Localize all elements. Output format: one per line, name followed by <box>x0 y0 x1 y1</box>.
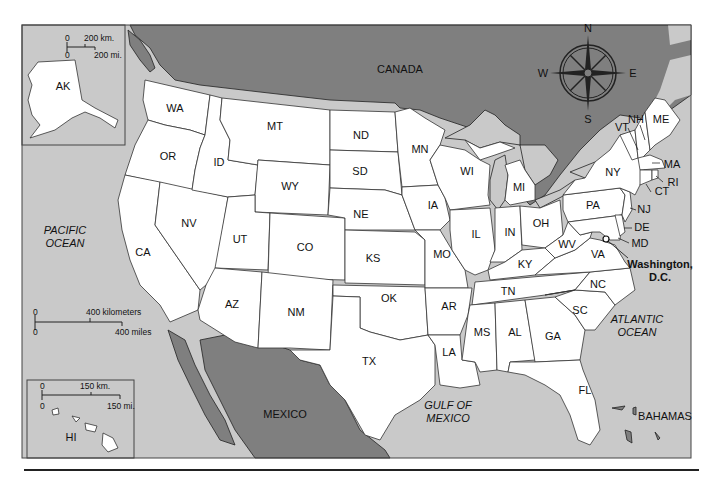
label-de: DE <box>634 221 649 233</box>
label-bahamas: BAHAMAS <box>638 410 692 422</box>
label-ok: OK <box>381 292 398 304</box>
label-gulf-2: MEXICO <box>426 412 470 424</box>
label-ks: KS <box>366 252 381 264</box>
label-wv: WV <box>558 238 576 250</box>
label-id: ID <box>214 156 225 168</box>
label-atlantic-1: ATLANTIC <box>610 313 663 325</box>
compass-n: N <box>584 22 592 34</box>
label-ms: MS <box>474 326 491 338</box>
us-map: N S E W CANADA MEXICO BAHAMAS PACIFIC OC… <box>0 0 713 478</box>
label-fl: FL <box>579 384 592 396</box>
label-ca: CA <box>135 246 151 258</box>
state-ks[interactable] <box>345 230 425 285</box>
label-ne: NE <box>353 208 368 220</box>
label-nj: NJ <box>637 203 650 215</box>
label-ct: CT <box>655 185 670 197</box>
label-nv: NV <box>181 217 197 229</box>
label-tx: TX <box>362 355 377 367</box>
label-oh: OH <box>533 217 550 229</box>
label-gulf-1: GULF OF <box>424 399 473 411</box>
ak-scale-km: 200 km. <box>84 33 114 43</box>
label-capital-1: Washington, <box>627 258 693 270</box>
label-mn: MN <box>411 143 428 155</box>
label-va: VA <box>591 248 606 260</box>
scale-zero-mi: 0 <box>33 327 38 337</box>
scale-zero-km: 0 <box>33 307 38 317</box>
label-mo: MO <box>433 248 451 260</box>
label-tn: TN <box>501 285 516 297</box>
state-ri[interactable] <box>652 170 658 180</box>
label-ak: AK <box>56 80 71 92</box>
label-md: MD <box>631 237 648 249</box>
label-atlantic-2: OCEAN <box>617 326 656 338</box>
label-wi: WI <box>460 165 473 177</box>
label-pacific-2: OCEAN <box>45 237 84 249</box>
hi-scale-zero-mi: 0 <box>40 401 45 411</box>
compass-s: S <box>584 113 591 125</box>
label-or: OR <box>160 150 177 162</box>
label-ar: AR <box>441 300 456 312</box>
label-ny: NY <box>605 166 621 178</box>
ak-scale-zero-km: 0 <box>65 33 70 43</box>
hi-scale-zero-km: 0 <box>40 381 45 391</box>
label-ky: KY <box>518 258 533 270</box>
compass-w: W <box>538 67 549 79</box>
label-il: IL <box>471 228 480 240</box>
hi-scale-mi: 150 mi. <box>107 401 135 411</box>
label-canada: CANADA <box>377 63 424 75</box>
ak-scale-mi: 200 mi. <box>94 50 122 60</box>
label-pacific-1: PACIFIC <box>44 224 87 236</box>
scale-km: 400 kilometers <box>86 307 141 317</box>
label-in: IN <box>505 226 516 238</box>
label-al: AL <box>508 326 521 338</box>
label-nh: NH <box>628 113 644 125</box>
label-mexico: MEXICO <box>263 408 307 420</box>
label-ma: MA <box>664 158 681 170</box>
label-ga: GA <box>545 330 562 342</box>
scale-mi: 400 miles <box>115 327 151 337</box>
label-wa: WA <box>166 102 184 114</box>
label-hi: HI <box>66 431 77 443</box>
compass-e: E <box>629 67 636 79</box>
label-mt: MT <box>267 120 283 132</box>
label-me: ME <box>653 113 670 125</box>
label-ut: UT <box>233 233 248 245</box>
label-mi: MI <box>513 181 525 193</box>
label-la: LA <box>442 346 456 358</box>
label-ia: IA <box>428 199 439 211</box>
hawaii-inset <box>27 380 134 458</box>
label-nd: ND <box>353 129 369 141</box>
label-wy: WY <box>281 180 299 192</box>
label-nc: NC <box>590 278 606 290</box>
label-sc: SC <box>572 304 587 316</box>
hi-scale-km: 150 km. <box>80 381 110 391</box>
label-nm: NM <box>287 306 304 318</box>
alaska-inset <box>22 25 125 145</box>
label-co: CO <box>297 241 314 253</box>
label-az: AZ <box>225 298 239 310</box>
ak-scale-zero-mi: 0 <box>65 50 70 60</box>
label-pa: PA <box>586 199 601 211</box>
label-sd: SD <box>352 165 367 177</box>
bottom-rule <box>24 469 699 471</box>
label-capital-2: D.C. <box>649 271 671 283</box>
